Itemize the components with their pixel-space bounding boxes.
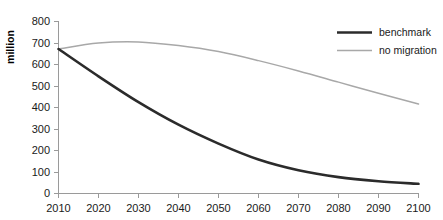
y-tick-label-200: 200 <box>32 144 50 156</box>
legend: benchmark no migration <box>337 26 437 56</box>
y-tick-label-800: 800 <box>32 15 50 27</box>
y-tick-label-700: 700 <box>32 37 50 49</box>
y-tick-marks <box>54 22 59 194</box>
y-tick-label-100: 100 <box>32 166 50 178</box>
x-tick-label-2060: 2060 <box>246 202 270 214</box>
y-axis-title: million <box>4 30 16 64</box>
x-axis: 2010 2020 2030 2040 2050 2060 2070 2080 … <box>46 194 430 215</box>
legend-label-benchmark: benchmark <box>379 26 432 38</box>
x-tick-label-2080: 2080 <box>326 202 350 214</box>
x-tick-label-2030: 2030 <box>126 202 150 214</box>
y-tick-labels: 800 700 600 500 400 300 200 100 0 <box>32 15 50 199</box>
x-tick-label-2040: 2040 <box>166 202 190 214</box>
x-tick-label-2050: 2050 <box>206 202 230 214</box>
legend-label-no-migration: no migration <box>379 44 437 56</box>
x-tick-label-2020: 2020 <box>86 202 110 214</box>
y-tick-label-400: 400 <box>32 101 50 113</box>
x-tick-label-2070: 2070 <box>286 202 310 214</box>
y-tick-label-300: 300 <box>32 123 50 135</box>
x-tick-label-2010: 2010 <box>46 202 70 214</box>
y-tick-label-500: 500 <box>32 80 50 92</box>
x-tick-label-2100: 2100 <box>406 202 430 214</box>
chart-container: 800 700 600 500 400 300 200 100 0 millio… <box>0 0 443 220</box>
x-tick-marks <box>59 194 419 199</box>
x-tick-label-2090: 2090 <box>366 202 390 214</box>
series-line-benchmark <box>59 49 419 184</box>
y-axis: 800 700 600 500 400 300 200 100 0 millio… <box>4 15 59 199</box>
line-chart: 800 700 600 500 400 300 200 100 0 millio… <box>0 0 443 220</box>
y-tick-label-0: 0 <box>44 187 50 199</box>
series-lines <box>59 42 419 184</box>
x-tick-labels: 2010 2020 2030 2040 2050 2060 2070 2080 … <box>46 202 430 214</box>
y-tick-label-600: 600 <box>32 58 50 70</box>
